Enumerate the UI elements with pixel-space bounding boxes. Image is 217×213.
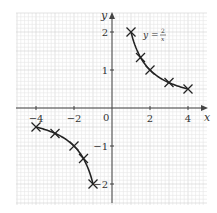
y-axis-label: y [100, 9, 108, 22]
axes [16, 12, 208, 203]
x-tick-label: −2 [67, 113, 82, 124]
function-label-numerator: 2 [161, 27, 165, 34]
reciprocal-graph: −4−22421−1−2 x y 0 y = 2 x [0, 0, 217, 213]
function-label: y = 2 x [142, 27, 166, 42]
x-tick-label: −4 [29, 113, 44, 124]
curve-positive-branch [131, 32, 188, 89]
x-tick-label: 4 [185, 113, 191, 124]
x-tick-label: 2 [147, 113, 153, 124]
y-tick-label: 1 [102, 65, 108, 76]
function-label-lhs: y = [142, 30, 159, 40]
cross-marker-icon [136, 53, 145, 62]
origin-label: 0 [103, 112, 109, 123]
y-tick-label: −1 [93, 141, 108, 152]
curve-negative-branch [36, 127, 93, 184]
y-tick-label: 2 [102, 27, 108, 38]
x-axis-label: x [204, 111, 211, 124]
cross-marker-icon [79, 154, 88, 163]
